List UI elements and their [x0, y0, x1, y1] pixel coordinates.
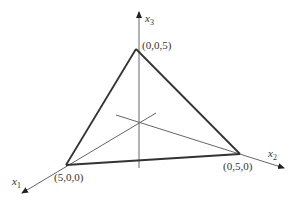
x3-axis-label: x3 [144, 12, 154, 27]
x1-axis-label: x1 [11, 175, 21, 190]
x2-axis-label: x2 [267, 147, 277, 162]
edge-bottom [66, 154, 240, 165]
edge-top-right [136, 49, 240, 154]
x1-axis [22, 113, 156, 193]
vertex-label-x3: (0,0,5) [142, 39, 172, 52]
vertex-label-x2: (0,5,0) [223, 160, 253, 173]
diagram-svg: x3 x1 x2 (0,0,5) (5,0,0) (0,5,0) [0, 0, 297, 205]
edge-top-left [66, 49, 136, 165]
simplex-diagram: x3 x1 x2 (0,0,5) (5,0,0) (0,5,0) [0, 0, 297, 205]
vertex-label-x1: (5,0,0) [54, 171, 84, 184]
